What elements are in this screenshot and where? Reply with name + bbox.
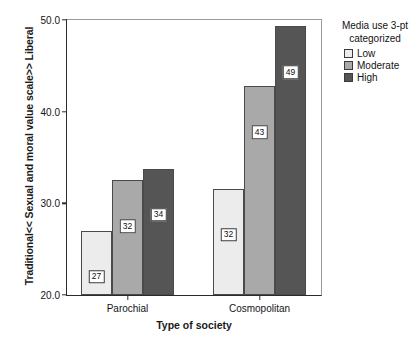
legend-items: LowModerateHigh xyxy=(330,48,420,83)
legend-swatch-icon xyxy=(344,61,353,70)
bar-moderate-cosmopolitan xyxy=(244,86,275,295)
y-axis-tick-mark xyxy=(62,111,67,112)
legend-item-high: High xyxy=(344,72,420,83)
legend-title-line2: categorized xyxy=(349,33,401,44)
x-axis-title: Type of society xyxy=(66,319,322,331)
bar-low-parochial xyxy=(81,231,112,295)
y-axis-title: Traditional<< Sexual and moral value sca… xyxy=(23,21,35,291)
plot-area: 273234324349 20.030.040.050.0ParochialCo… xyxy=(66,19,322,296)
legend-item-label: Moderate xyxy=(357,60,399,71)
bar-value-label: 34 xyxy=(150,208,166,222)
bar-value-label: 32 xyxy=(220,228,236,242)
legend-item-low: Low xyxy=(344,48,420,59)
y-axis-tick-mark xyxy=(62,19,67,20)
x-axis-tick-label: Parochial xyxy=(107,303,149,314)
bar-low-cosmopolitan xyxy=(213,189,244,295)
bar-value-label: 32 xyxy=(119,220,135,234)
legend-swatch-icon xyxy=(344,73,353,82)
legend-title: Media use 3-pt categorized xyxy=(330,20,420,45)
legend: Media use 3-pt categorized LowModerateHi… xyxy=(330,20,420,84)
x-axis-tick-mark xyxy=(259,295,260,300)
x-axis-tick-mark xyxy=(127,295,128,300)
bar-chart: Traditional<< Sexual and moral value sca… xyxy=(0,0,420,338)
legend-item-label: Low xyxy=(357,48,375,59)
legend-swatch-icon xyxy=(344,49,353,58)
legend-item-label: High xyxy=(357,72,378,83)
y-axis-tick-mark xyxy=(62,294,67,295)
bar-moderate-parochial xyxy=(112,180,143,295)
legend-title-line1: Media use 3-pt xyxy=(342,20,408,31)
bar-high-parochial xyxy=(143,169,174,296)
bar-value-label: 27 xyxy=(88,270,104,284)
x-axis-tick-label: Cosmopolitan xyxy=(229,303,290,314)
bars-layer: 273234324349 xyxy=(67,20,321,295)
y-axis-tick-mark xyxy=(62,203,67,204)
legend-item-moderate: Moderate xyxy=(344,60,420,71)
bar-value-label: 43 xyxy=(251,125,267,139)
bar-value-label: 49 xyxy=(282,66,298,80)
